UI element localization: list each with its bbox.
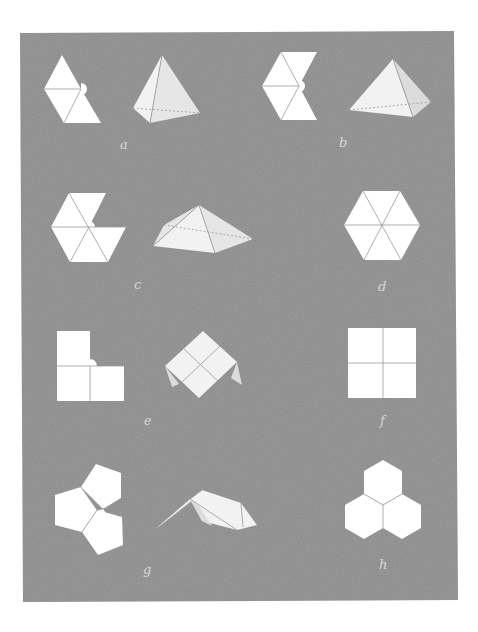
label-a: a xyxy=(120,137,128,152)
label-h: h xyxy=(379,557,387,572)
square-f xyxy=(348,328,416,398)
label-b: b xyxy=(339,135,347,150)
label-g: g xyxy=(143,562,151,577)
label-e: e xyxy=(144,413,152,428)
angular-deficit-figure: a b xyxy=(0,0,478,632)
label-c: c xyxy=(134,277,142,292)
label-d: d xyxy=(378,279,386,294)
